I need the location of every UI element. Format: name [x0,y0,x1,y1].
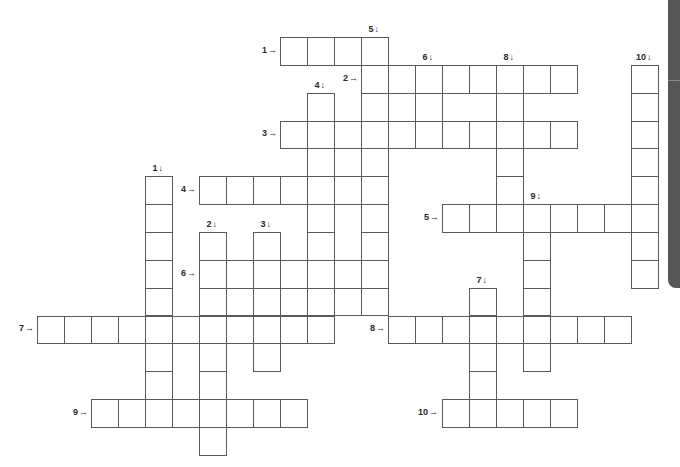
grid-cell-r4-c11[interactable] [334,148,362,177]
grid-cell-r13-c9[interactable] [280,399,308,428]
grid-cell-r5-c9[interactable] [280,176,308,205]
grid-cell-r4-c22[interactable] [631,148,659,177]
grid-cell-r12-c16[interactable] [469,371,497,400]
grid-cell-r8-c11[interactable] [334,260,362,289]
grid-cell-r13-c16[interactable] [469,399,497,428]
grid-cell-r5-c8[interactable] [253,176,281,205]
grid-cell-r10-c21[interactable] [604,316,632,345]
grid-cell-r7-c4[interactable] [145,232,173,261]
grid-cell-r3-c15[interactable] [442,121,470,150]
grid-cell-r3-c17[interactable] [496,121,524,150]
grid-cell-r8-c18[interactable] [523,260,551,289]
grid-cell-r0-c11[interactable] [334,37,362,66]
grid-cell-r4-c10[interactable] [307,148,335,177]
grid-cell-r9-c9[interactable] [280,288,308,317]
grid-cell-r10-c10[interactable] [307,316,335,345]
grid-cell-r5-c11[interactable] [334,176,362,205]
grid-cell-r3-c9[interactable] [280,121,308,150]
grid-cell-r10-c20[interactable] [577,316,605,345]
grid-cell-r12-c4[interactable] [145,371,173,400]
grid-cell-r10-c2[interactable] [91,316,119,345]
grid-cell-r10-c8[interactable] [253,316,281,345]
grid-cell-r10-c19[interactable] [550,316,578,345]
grid-cell-r1-c15[interactable] [442,65,470,94]
grid-cell-r13-c5[interactable] [172,399,200,428]
grid-cell-r9-c6[interactable] [199,288,227,317]
grid-cell-r5-c4[interactable] [145,176,173,205]
grid-cell-r10-c5[interactable] [172,316,200,345]
grid-cell-r11-c6[interactable] [199,343,227,372]
grid-cell-r9-c11[interactable] [334,288,362,317]
grid-cell-r10-c6[interactable] [199,316,227,345]
grid-cell-r5-c7[interactable] [226,176,254,205]
grid-cell-r2-c22[interactable] [631,93,659,122]
grid-cell-r6-c18[interactable] [523,204,551,233]
grid-cell-r3-c19[interactable] [550,121,578,150]
grid-cell-r11-c16[interactable] [469,343,497,372]
grid-cell-r6-c12[interactable] [361,204,389,233]
grid-cell-r8-c9[interactable] [280,260,308,289]
grid-cell-r3-c12[interactable] [361,121,389,150]
grid-cell-r9-c10[interactable] [307,288,335,317]
grid-cell-r8-c10[interactable] [307,260,335,289]
grid-cell-r4-c12[interactable] [361,148,389,177]
grid-cell-r13-c2[interactable] [91,399,119,428]
grid-cell-r8-c7[interactable] [226,260,254,289]
grid-cell-r10-c0[interactable] [37,316,65,345]
grid-cell-r9-c12[interactable] [361,288,389,317]
grid-cell-r3-c14[interactable] [415,121,443,150]
grid-cell-r0-c9[interactable] [280,37,308,66]
grid-cell-r3-c10[interactable] [307,121,335,150]
grid-cell-r13-c8[interactable] [253,399,281,428]
grid-cell-r6-c20[interactable] [577,204,605,233]
grid-cell-r10-c9[interactable] [280,316,308,345]
grid-cell-r3-c18[interactable] [523,121,551,150]
grid-cell-r12-c6[interactable] [199,371,227,400]
grid-cell-r10-c1[interactable] [64,316,92,345]
grid-cell-r13-c15[interactable] [442,399,470,428]
grid-cell-r6-c16[interactable] [469,204,497,233]
grid-cell-r8-c8[interactable] [253,260,281,289]
grid-cell-r5-c10[interactable] [307,176,335,205]
grid-cell-r10-c14[interactable] [415,316,443,345]
grid-cell-r1-c14[interactable] [415,65,443,94]
grid-cell-r2-c12[interactable] [361,93,389,122]
grid-cell-r3-c11[interactable] [334,121,362,150]
grid-cell-r7-c6[interactable] [199,232,227,261]
grid-cell-r2-c14[interactable] [415,93,443,122]
grid-cell-r6-c4[interactable] [145,204,173,233]
grid-cell-r1-c22[interactable] [631,65,659,94]
grid-cell-r13-c4[interactable] [145,399,173,428]
grid-cell-r5-c12[interactable] [361,176,389,205]
grid-cell-r13-c6[interactable] [199,399,227,428]
grid-cell-r14-c6[interactable] [199,427,227,456]
grid-cell-r10-c18[interactable] [523,316,551,345]
grid-cell-r9-c7[interactable] [226,288,254,317]
grid-cell-r4-c17[interactable] [496,148,524,177]
grid-cell-r10-c15[interactable] [442,316,470,345]
grid-cell-r7-c10[interactable] [307,232,335,261]
grid-cell-r8-c6[interactable] [199,260,227,289]
grid-cell-r11-c18[interactable] [523,343,551,372]
grid-cell-r2-c13[interactable] [388,93,416,122]
grid-cell-r1-c17[interactable] [496,65,524,94]
grid-cell-r10-c13[interactable] [388,316,416,345]
grid-cell-r10-c16[interactable] [469,316,497,345]
grid-cell-r3-c13[interactable] [388,121,416,150]
grid-cell-r6-c15[interactable] [442,204,470,233]
grid-cell-r1-c19[interactable] [550,65,578,94]
grid-cell-r0-c12[interactable] [361,37,389,66]
grid-cell-r13-c17[interactable] [496,399,524,428]
grid-cell-r8-c22[interactable] [631,260,659,289]
grid-cell-r7-c18[interactable] [523,232,551,261]
grid-cell-r9-c16[interactable] [469,288,497,317]
grid-cell-r13-c3[interactable] [118,399,146,428]
grid-cell-r13-c18[interactable] [523,399,551,428]
grid-cell-r7-c12[interactable] [361,232,389,261]
grid-cell-r6-c21[interactable] [604,204,632,233]
grid-cell-r1-c18[interactable] [523,65,551,94]
grid-cell-r5-c17[interactable] [496,176,524,205]
grid-cell-r1-c13[interactable] [388,65,416,94]
grid-cell-r8-c4[interactable] [145,260,173,289]
grid-cell-r13-c19[interactable] [550,399,578,428]
